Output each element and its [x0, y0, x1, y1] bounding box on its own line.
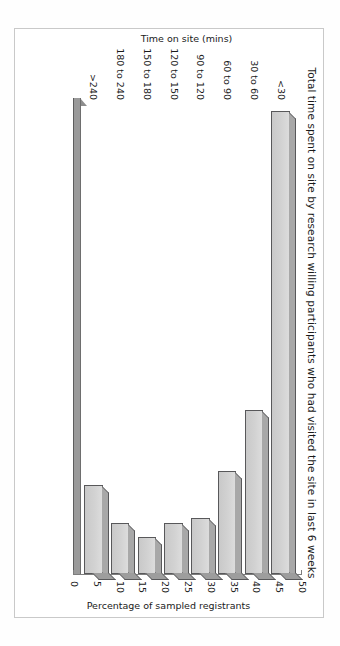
value-axis-tick: [73, 570, 74, 575]
bar: [138, 537, 157, 574]
bar-top-face: [236, 472, 243, 580]
category-axis-title-label: Time on site (mins): [141, 34, 233, 45]
bar-face: [192, 519, 209, 573]
rotated-chart-container: Total time spent on site by research wil…: [14, 28, 324, 618]
value-axis-tick-label: 35: [227, 581, 241, 593]
bar-face: [112, 524, 129, 573]
figure-frame: Total time spent on site by research wil…: [14, 28, 324, 618]
floor-top-edge: [80, 98, 81, 574]
value-axis-tick-label: 40: [249, 581, 263, 593]
value-axis-title-label: Percentage of sampled registrants: [87, 601, 251, 612]
chart-page: Total time spent on site by research wil…: [0, 0, 340, 646]
bar: [271, 111, 290, 574]
value-axis-tick: [301, 570, 302, 575]
bar: [84, 485, 103, 574]
value-axis-title: Percentage of sampled registrants: [14, 594, 324, 618]
bar-face: [85, 486, 102, 573]
value-axis-tick-label: 50: [295, 581, 309, 593]
value-axis-tick-label: 30: [204, 581, 218, 593]
category-axis-label: 120 to 150: [167, 28, 181, 100]
value-axis-tick-label: 0: [67, 581, 81, 587]
bar-top-face: [182, 524, 189, 580]
bar-top-face: [102, 486, 109, 580]
bar: [111, 523, 130, 574]
chart-title: Total time spent on site by research wil…: [306, 28, 318, 618]
bar: [218, 471, 237, 574]
bar-top-face: [209, 519, 216, 580]
bar-top-face: [262, 411, 269, 580]
category-axis-label: 180 to 240: [113, 28, 127, 100]
category-axis-title: Time on site (mins): [80, 28, 294, 50]
bar-top-face: [129, 524, 136, 580]
value-axis-tick-label: 15: [135, 581, 149, 593]
value-axis-tick-label: 25: [181, 581, 195, 593]
category-axis-label: 30 to 60: [247, 28, 261, 100]
category-axis-label: 60 to 90: [220, 28, 234, 100]
category-axis-label: >240: [86, 28, 100, 100]
bar-face: [139, 538, 156, 573]
value-axis-tick-label: 45: [272, 581, 286, 593]
bar-face: [246, 411, 263, 573]
bar-top-face: [289, 112, 296, 580]
bar-face: [165, 524, 182, 573]
category-axis-label: 90 to 120: [193, 28, 207, 100]
bar-face: [272, 112, 289, 573]
value-axis-tick-label: 20: [158, 581, 172, 593]
category-axis-label: <30: [274, 28, 288, 100]
bar: [191, 518, 210, 574]
bar: [164, 523, 183, 574]
bar-face: [219, 472, 236, 573]
category-axis-label: 150 to 180: [140, 28, 154, 100]
bar: [245, 410, 264, 574]
value-axis-tick-label: 10: [113, 581, 127, 593]
value-axis-tick-label: 5: [90, 581, 104, 587]
chart-inner: Total time spent on site by research wil…: [14, 28, 324, 618]
plot-area: [80, 106, 294, 574]
